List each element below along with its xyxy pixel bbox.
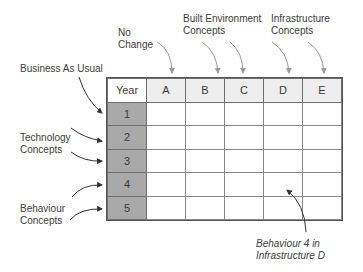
arrow-built-env-to-c — [230, 42, 243, 73]
arrow-bau-to-year-1 — [79, 77, 102, 113]
arrow-annotation-to-d4 — [287, 190, 306, 232]
arrow-no-change-to-a — [157, 42, 172, 73]
arrow-technology-to-year-3 — [71, 152, 102, 161]
arrow-built-env-to-b — [202, 42, 218, 73]
arrows-layer — [0, 0, 363, 272]
arrow-behaviour-to-year-4 — [72, 185, 102, 197]
arrow-infra-to-d — [272, 42, 289, 73]
arrow-infra-to-e — [308, 42, 324, 73]
arrow-technology-to-year-2 — [71, 128, 102, 141]
arrow-behaviour-to-year-5 — [70, 209, 102, 220]
